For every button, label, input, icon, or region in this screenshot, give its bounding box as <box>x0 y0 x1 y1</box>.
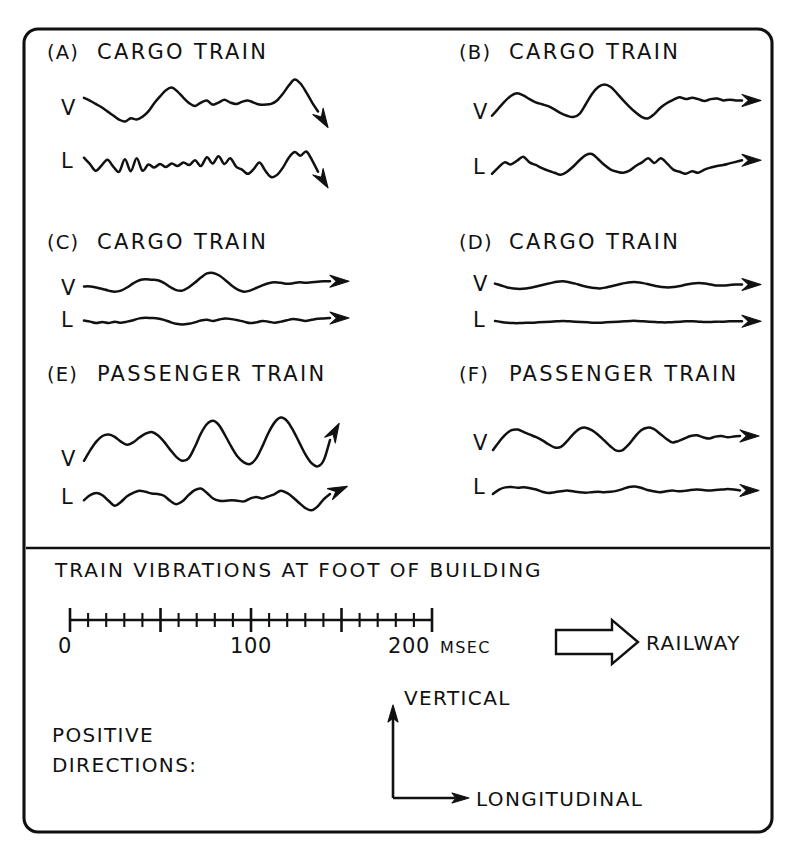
trace-label-l-e: L <box>61 485 73 509</box>
panel-tag-c: (C) <box>47 231 79 254</box>
trace-arrow-l-f-icon <box>740 484 759 496</box>
positive-directions-line1: POSITIVE <box>52 723 154 747</box>
trace-l-e <box>84 488 330 510</box>
time-unit-label: MSEC <box>440 638 491 657</box>
trace-label-l-f: L <box>473 475 485 499</box>
panel-tag-b: (B) <box>459 41 491 64</box>
trace-v-d <box>495 281 742 289</box>
trace-v-f <box>493 428 740 451</box>
time-label-0: 0 <box>58 634 72 658</box>
trace-v-c <box>84 273 330 292</box>
panel-label-c: (C) CARGO TRAIN <box>47 230 268 254</box>
trace-arrow-l-e-icon <box>328 486 348 499</box>
trace-arrow-v-a-icon <box>313 108 328 127</box>
panel-title-f: PASSENGER TRAIN <box>509 362 738 386</box>
trace-arrow-l-a-icon <box>313 169 328 188</box>
panel-title-a: CARGO TRAIN <box>97 40 268 64</box>
panel-label-f: (F) PASSENGER TRAIN <box>459 362 738 386</box>
panel-tag-a: (A) <box>47 41 79 64</box>
trace-label-v-e: V <box>61 447 76 471</box>
panel-label-d: (D) CARGO TRAIN <box>459 230 680 254</box>
trace-label-v-b: V <box>473 100 488 124</box>
panel-tag-d: (D) <box>459 231 493 254</box>
trace-l-b <box>492 154 742 175</box>
panel-label-e: (E) PASSENGER TRAIN <box>47 362 326 386</box>
block-arrow-right-icon <box>556 620 638 664</box>
trace-l-d <box>495 321 742 323</box>
figure-border <box>24 29 772 832</box>
trace-arrow-v-c-icon <box>330 275 349 287</box>
panel-label-a: (A) CARGO TRAIN <box>47 40 268 64</box>
trace-l-a <box>84 151 318 177</box>
trace-arrow-l-c-icon <box>330 312 349 324</box>
panel-tag-f: (F) <box>459 363 489 386</box>
trace-arrow-v-e-icon <box>325 423 339 443</box>
trace-v-e <box>84 418 330 467</box>
trace-arrow-v-b-icon <box>742 94 761 106</box>
trace-label-l-b: L <box>473 155 485 179</box>
trace-label-v-f: V <box>473 431 488 455</box>
panel-title-d: CARGO TRAIN <box>509 230 680 254</box>
trace-label-v-c: V <box>61 276 76 300</box>
vertical-axis-label: VERTICAL <box>404 686 511 710</box>
longitudinal-axis-label: LONGITUDINAL <box>476 787 643 811</box>
figure-caption: TRAIN VIBRATIONS AT FOOT OF BUILDING <box>54 558 543 582</box>
trace-label-v-a: V <box>61 96 76 120</box>
trace-arrow-v-d-icon <box>742 279 761 291</box>
trace-label-l-d: L <box>473 308 485 332</box>
positive-directions-line2: DIRECTIONS: <box>52 753 197 777</box>
trace-arrow-l-b-icon <box>742 154 761 166</box>
trace-arrow-v-f-icon <box>740 430 759 442</box>
panel-label-b: (B) CARGO TRAIN <box>459 40 680 64</box>
panel-title-c: CARGO TRAIN <box>97 230 268 254</box>
trace-l-f <box>493 486 740 494</box>
trace-v-b <box>492 84 742 118</box>
panel-title-e: PASSENGER TRAIN <box>97 362 326 386</box>
trace-v-a <box>84 79 318 121</box>
panel-title-b: CARGO TRAIN <box>509 40 680 64</box>
trace-label-l-a: L <box>61 149 73 173</box>
train-vibration-figure: (A) CARGO TRAIN (B) CARGO TRAIN (C) CARG… <box>0 0 798 867</box>
time-scale-axis <box>70 608 432 632</box>
trace-arrow-l-d-icon <box>742 315 761 327</box>
railway-legend-label: RAILWAY <box>646 631 741 655</box>
figure-root: (A) CARGO TRAIN (B) CARGO TRAIN (C) CARG… <box>0 0 798 867</box>
trace-l-c <box>84 318 330 325</box>
trace-label-l-c: L <box>61 308 73 332</box>
time-label-200: 200 <box>388 634 430 658</box>
trace-label-v-d: V <box>473 272 488 296</box>
panel-tag-e: (E) <box>47 363 78 386</box>
waveform-layer <box>84 79 761 510</box>
time-label-100: 100 <box>230 634 272 658</box>
